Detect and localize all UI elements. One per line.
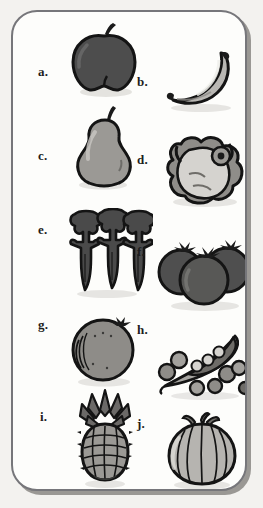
lettuce-illustration	[159, 130, 247, 210]
item-label-a: a.	[38, 64, 48, 80]
item-label-g: g.	[38, 317, 48, 333]
item-label-h: h.	[137, 322, 148, 338]
item-label-d: d.	[137, 152, 148, 168]
item-label-i: i.	[40, 409, 47, 425]
orange-illustration	[63, 312, 145, 390]
item-label-j: j.	[137, 416, 145, 432]
picture-panel: a. b.	[11, 10, 247, 491]
peas-illustration	[153, 330, 247, 402]
onion-illustration	[157, 406, 247, 491]
worksheet-page: a. b.	[0, 0, 263, 508]
apple-illustration	[61, 20, 147, 100]
item-label-e: e.	[38, 222, 47, 238]
tomatoes-illustration	[155, 236, 247, 312]
item-label-b: b.	[137, 74, 148, 90]
pineapple-illustration	[68, 386, 142, 490]
item-label-c: c.	[38, 148, 47, 164]
item-label-f: f.	[137, 244, 145, 260]
banana-illustration	[153, 48, 245, 114]
pear-illustration	[63, 102, 145, 192]
